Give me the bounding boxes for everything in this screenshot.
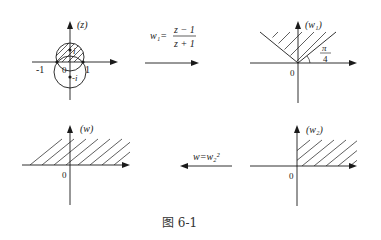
point-neg-i-label: -i (72, 73, 78, 83)
w1-plane: (w₁) 0 π 4 (250, 19, 357, 103)
w-hatch-region (30, 139, 146, 165)
w1-origin-label: 0 (290, 68, 295, 78)
arrowhead-icon (295, 21, 301, 29)
arrowhead-icon (67, 21, 73, 29)
map1-transform: w₁= z − 1 z + 1 (145, 24, 199, 66)
tick-one: 1 (85, 64, 90, 75)
map2-label: w=w₂² (193, 151, 221, 162)
angle-denominator: 4 (323, 54, 328, 64)
angle-arc (307, 56, 310, 63)
w-plane: (w) 0 (22, 123, 146, 205)
w-origin-label: 0 (62, 170, 67, 180)
figure-caption: 图 6-1 (162, 213, 197, 230)
arrow-left-icon (180, 163, 188, 169)
map1-lhs: w₁= (150, 30, 167, 41)
point-i (68, 48, 71, 51)
arrowhead-icon (294, 125, 300, 133)
z-plane: (z) -1 1 0 i -i (32, 19, 118, 100)
arrowhead-icon (110, 59, 118, 65)
w-plane-label: (w) (80, 123, 94, 135)
w1-left-ray (260, 32, 298, 63)
w2-origin-label: 0 (289, 171, 294, 181)
conformal-map-figure: (z) -1 1 0 i -i w₁= z − 1 z + 1 (0, 0, 381, 240)
map1-denominator: z + 1 (173, 38, 195, 49)
point-neg-one (55, 60, 58, 63)
w1-plane-label: (w₁) (305, 19, 322, 31)
map2-transform: w=w₂² (180, 151, 232, 169)
arrowhead-icon (349, 60, 357, 66)
z-plane-label: (z) (77, 19, 88, 31)
w1-right-ray (298, 32, 336, 63)
map1-numerator: z − 1 (173, 24, 195, 35)
tick-neg-one: -1 (36, 64, 44, 75)
w2-hatch-region (278, 140, 381, 166)
arrowhead-icon (122, 162, 130, 168)
w2-plane: (w₂) 0 (250, 124, 381, 206)
arrowhead-icon (67, 125, 73, 133)
w2-plane-label: (w₂) (306, 124, 323, 136)
arrow-right-icon (191, 60, 199, 66)
z-origin-label: 0 (62, 65, 67, 75)
angle-numerator: π (322, 43, 327, 53)
